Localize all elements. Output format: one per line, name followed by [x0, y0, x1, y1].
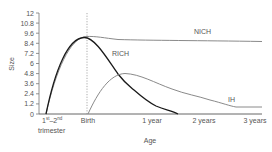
x-tick-label-trimester: 1st–2nd: [42, 116, 63, 124]
y-tick-label: 4.8: [24, 70, 34, 77]
y-tick-label: 8.4: [24, 40, 34, 47]
growth-chart: 0 1.2 2.4 3.6 4.8 6 7.2 8.4 9.6 10.8 12 …: [0, 0, 272, 152]
x-tick-label-1-year: 1 year: [142, 117, 162, 125]
y-tick-label: 7.2: [24, 50, 34, 57]
y-tick-label: 0: [30, 111, 34, 118]
series-label-rich: RICH: [112, 50, 129, 57]
x-tick-label-3-years: 3 years: [244, 117, 267, 125]
y-tick-label: 10.8: [20, 20, 34, 27]
x-tick-label-birth: Birth: [81, 117, 96, 124]
y-axis-title: Size: [8, 57, 15, 71]
y-tick-label: 12: [26, 10, 34, 17]
series-label-nich: NICH: [194, 28, 211, 35]
x-axis: 1st–2nd trimester Birth 1 year 2 years 3…: [38, 114, 267, 145]
y-tick-label: 6: [30, 60, 34, 67]
x-tick-label-trimester-line2: trimester: [38, 127, 66, 134]
x-axis-title: Age: [144, 137, 157, 145]
y-tick-label: 3.6: [24, 80, 34, 87]
series-label-ih: IH: [228, 96, 235, 103]
y-tick-label: 2.4: [24, 90, 34, 97]
series-ih-line: [88, 74, 262, 115]
y-tick-label: 9.6: [24, 30, 34, 37]
y-tick-label: 1.2: [24, 100, 34, 107]
x-tick-label-2-years: 2 years: [193, 117, 216, 125]
series-rich-line: [46, 37, 178, 114]
y-axis: 0 1.2 2.4 3.6 4.8 6 7.2 8.4 9.6 10.8 12 …: [8, 10, 39, 118]
